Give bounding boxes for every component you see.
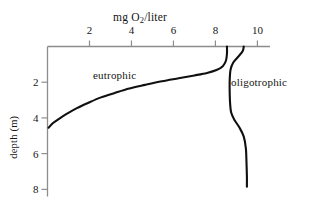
y-tick-label: 2: [33, 77, 39, 88]
curve-oligotrophic: [230, 47, 247, 187]
x-tick-marks: [89, 41, 257, 47]
chart-title: mg O2/liter: [113, 12, 167, 25]
y-tick-marks: [42, 82, 48, 189]
y-axis-title: depth (m): [9, 107, 20, 167]
x-tick-label: 2: [87, 25, 93, 36]
curve-eutrophic: [49, 47, 227, 128]
x-tick-label: 4: [129, 25, 135, 36]
y-tick-label: 4: [33, 112, 39, 123]
oxygen-depth-profile-chart: mg O2/liter depth (m) 246810 2468 eutrop…: [0, 0, 309, 216]
y-tick-label: 8: [33, 184, 39, 195]
data-curves: [49, 47, 247, 187]
x-tick-label: 8: [213, 25, 219, 36]
x-tick-label: 10: [252, 25, 263, 36]
chart-title-pre: mg O: [113, 11, 140, 23]
series-label-eutrophic: eutrophic: [93, 70, 136, 81]
y-tick-label: 6: [33, 148, 39, 159]
series-label-oligotrophic: oligotrophic: [231, 77, 287, 88]
x-tick-label: 6: [171, 25, 177, 36]
chart-title-post: /liter: [144, 11, 167, 23]
